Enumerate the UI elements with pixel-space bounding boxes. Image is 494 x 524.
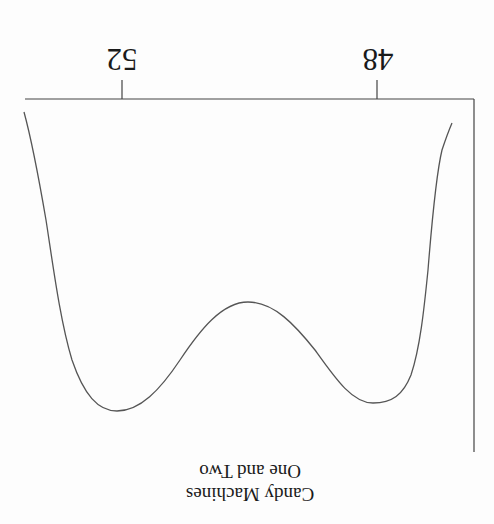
- chart-canvas: 52 48 Candy Machines One and Two: [0, 0, 494, 524]
- caption-line-2: One and Two: [150, 460, 350, 483]
- chart-plot: [0, 0, 494, 524]
- x-tick-label-52: 52: [100, 46, 144, 72]
- chart-caption: Candy Machines One and Two: [150, 460, 350, 506]
- x-tick-label-48: 48: [356, 46, 400, 72]
- caption-line-1: Candy Machines: [150, 483, 350, 506]
- distribution-curve: [24, 112, 452, 411]
